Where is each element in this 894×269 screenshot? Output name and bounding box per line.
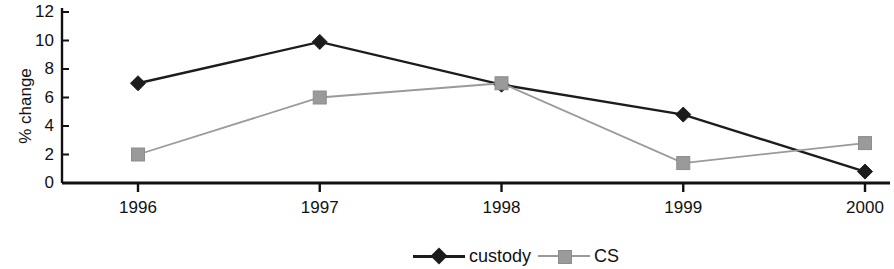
legend-label: custody — [469, 246, 531, 266]
legend-item-custody[interactable]: custody — [413, 243, 531, 269]
x-axis-tick-label: 2000 — [830, 198, 894, 217]
x-axis-tick-label: 1996 — [103, 198, 173, 217]
legend-label: CS — [594, 246, 619, 266]
x-axis-tick-label: 1999 — [648, 198, 718, 217]
legend-item-cs[interactable]: CS — [538, 243, 619, 269]
legend-swatch — [538, 246, 590, 266]
square-marker-icon — [558, 250, 572, 264]
x-axis-tick-label: 1998 — [467, 198, 537, 217]
chart-container: % change 024681012 19961997199819992000 … — [0, 0, 894, 269]
x-axis-tick-label: 1997 — [285, 198, 355, 217]
legend-swatch — [413, 246, 465, 266]
x-axis-tick-labels: 19961997199819992000 — [0, 0, 894, 269]
chart-legend: custodyCS — [0, 243, 894, 269]
diamond-marker-icon — [431, 248, 448, 265]
